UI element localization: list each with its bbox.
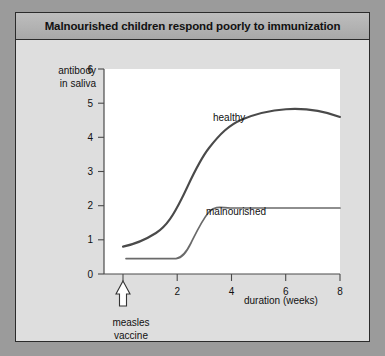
y-tick-3: 3 [87,166,93,177]
y-tick-2: 2 [87,200,93,211]
measles-vaccine-label-line2: vaccine [86,330,176,343]
x-tick-8: 8 [337,286,343,297]
chart-body: antibody in saliva [16,40,369,341]
chart-panel: Malnourished children respond poorly to … [15,12,370,342]
measles-vaccine-label-line1: measles [86,317,176,330]
measles-vaccine-arrow-icon [116,281,130,306]
chart-title-bar: Malnourished children respond poorly to … [16,13,369,40]
y-axis-ticks [98,69,104,274]
series-line-healthy [123,109,340,247]
series-label-healthy: healthy [213,112,245,123]
y-tick-1: 1 [87,234,93,245]
y-axis-tick-labels: 6 5 4 3 2 1 0 [87,64,93,280]
series-label-malnourished: malnourished [206,206,266,217]
figure-root: Malnourished children respond poorly to … [0,0,385,356]
x-axis-label: duration (weeks) [244,295,318,306]
page-title: Malnourished children respond poorly to … [45,20,341,32]
x-tick-4: 4 [229,286,235,297]
y-tick-4: 4 [87,132,93,143]
y-tick-6: 6 [87,64,93,75]
y-tick-0: 0 [87,269,93,280]
x-tick-2: 2 [174,286,180,297]
y-tick-5: 5 [87,98,93,109]
measles-vaccine-label: measles vaccine [86,317,176,342]
x-axis-ticks [123,274,340,281]
